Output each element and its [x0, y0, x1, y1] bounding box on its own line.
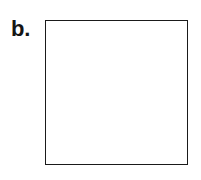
- panel-frame-box: [45, 20, 188, 165]
- figure-panel: b.: [0, 0, 201, 180]
- panel-content-area: [46, 21, 187, 164]
- panel-label: b.: [11, 17, 30, 41]
